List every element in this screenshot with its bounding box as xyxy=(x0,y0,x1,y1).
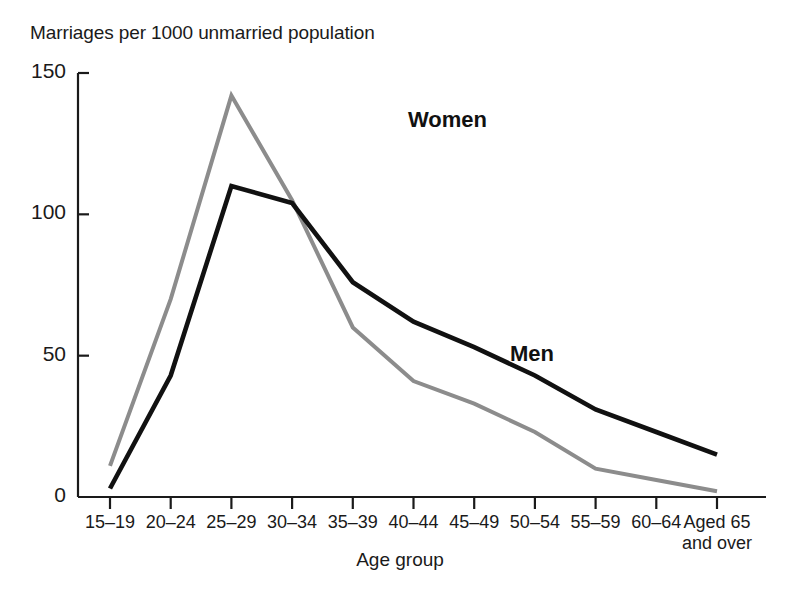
x-tick-label-line: and over xyxy=(669,533,765,554)
series-annotation-men: Men xyxy=(510,341,554,367)
line-series-men xyxy=(110,186,717,488)
axes xyxy=(78,73,766,509)
y-tick-label: 100 xyxy=(2,200,66,224)
x-axis-label: Age group xyxy=(300,549,500,571)
data-series xyxy=(110,96,717,492)
line-series-women xyxy=(110,96,717,492)
x-tick-label: Aged 65and over xyxy=(669,512,765,554)
y-tick-label: 50 xyxy=(2,342,66,366)
chart-container: Marriages per 1000 unmarried population … xyxy=(0,0,799,608)
y-tick-label: 150 xyxy=(2,59,66,83)
y-tick-label: 0 xyxy=(2,483,66,507)
series-annotation-women: Women xyxy=(408,107,487,133)
x-tick-label-line: Aged 65 xyxy=(669,512,765,533)
